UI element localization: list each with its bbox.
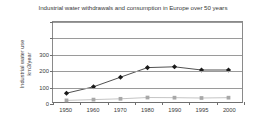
x-axis-tick-label: 1950 bbox=[59, 107, 72, 113]
x-axis-tick bbox=[244, 102, 245, 105]
x-axis-tick-label: 1990 bbox=[168, 107, 181, 113]
x-axis-tick bbox=[162, 102, 163, 105]
y-axis-tick bbox=[50, 55, 53, 56]
y-axis-tick-labels: 0100200300 bbox=[33, 21, 49, 103]
x-axis-tick bbox=[135, 102, 136, 105]
chart-container: Industrial water withdrawals and consump… bbox=[0, 0, 266, 127]
gridline bbox=[53, 22, 242, 23]
y-axis-tick bbox=[50, 38, 53, 39]
x-axis-tick bbox=[80, 102, 81, 105]
plot-area bbox=[52, 21, 243, 103]
gridline bbox=[53, 55, 242, 56]
y-axis-label-line2: km3/year bbox=[26, 40, 33, 89]
chart-title: Industrial water withdrawals and consump… bbox=[0, 4, 266, 11]
data-point-marker bbox=[92, 98, 96, 102]
data-point-marker bbox=[173, 96, 177, 100]
data-series-layer bbox=[53, 22, 242, 102]
y-axis-tick-label: 200 bbox=[39, 68, 49, 74]
x-axis-tick bbox=[217, 102, 218, 105]
data-point-marker bbox=[65, 99, 69, 103]
data-point-marker bbox=[200, 96, 204, 100]
data-point-marker bbox=[64, 91, 69, 96]
x-axis-tick-label: 1980 bbox=[141, 107, 154, 113]
y-axis-tick-label: 300 bbox=[39, 52, 49, 58]
gridline bbox=[53, 38, 242, 39]
x-axis-tick-label: 1960 bbox=[86, 107, 99, 113]
x-axis-tick-label: 1970 bbox=[114, 107, 127, 113]
y-axis-label-line1: Industrial water use bbox=[19, 40, 26, 89]
x-axis-tick bbox=[53, 102, 54, 105]
data-point-marker bbox=[172, 64, 177, 69]
gridline bbox=[53, 71, 242, 72]
x-axis-tick bbox=[108, 102, 109, 105]
data-point-marker bbox=[119, 97, 123, 101]
y-axis-tick bbox=[50, 71, 53, 72]
data-point-marker bbox=[145, 65, 150, 70]
x-axis-tick bbox=[189, 102, 190, 105]
data-point-marker bbox=[146, 96, 150, 100]
x-axis-tick-labels: 1950196019701980199019952000 bbox=[52, 107, 243, 119]
y-axis-tick bbox=[50, 88, 53, 89]
data-point-marker bbox=[227, 96, 231, 100]
x-axis-tick-label: 2000 bbox=[223, 107, 236, 113]
x-axis-tick-label: 1995 bbox=[196, 107, 209, 113]
gridline bbox=[53, 88, 242, 89]
data-point-marker bbox=[118, 75, 123, 80]
y-axis-tick-label: 100 bbox=[39, 85, 49, 91]
y-axis-tick bbox=[50, 22, 53, 23]
y-axis-tick-label: 0 bbox=[46, 101, 49, 107]
